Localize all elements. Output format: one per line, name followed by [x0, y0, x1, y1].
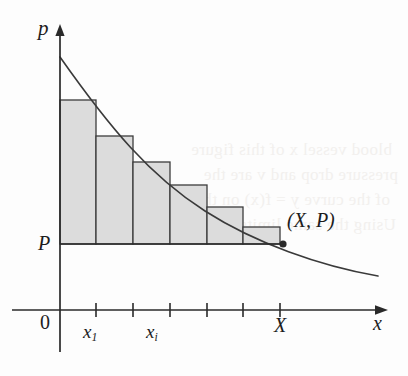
- bar-rect-5: [207, 207, 243, 244]
- price-level-label: P: [38, 233, 50, 253]
- bar-rect-4: [170, 185, 207, 244]
- point-marker-XP: [279, 240, 286, 247]
- rectangle-bars-group: [60, 100, 280, 244]
- figure-canvas: [0, 0, 408, 376]
- p-axis-label: p: [38, 18, 49, 39]
- x-axis: [12, 305, 388, 315]
- tick-label-x-one: x1: [83, 322, 97, 343]
- tick-label-x-i: xi: [146, 322, 158, 343]
- bar-rect-3: [133, 162, 170, 244]
- tick-label-x-one-subscript: 1: [91, 331, 97, 344]
- x-axis-label: x: [373, 313, 382, 333]
- tick-label-x-i-subscript: i: [154, 331, 157, 344]
- bar-rect-2: [96, 136, 133, 244]
- point-label-XP: (X, P): [287, 210, 335, 230]
- p-axis-arrowhead-icon: [55, 24, 64, 36]
- origin-label: 0: [40, 312, 50, 332]
- consumer-surplus-figure: blood vessel x of this figure pressure d…: [0, 0, 408, 376]
- bar-rect-1: [60, 100, 96, 244]
- upper-limit-label: X: [274, 315, 286, 335]
